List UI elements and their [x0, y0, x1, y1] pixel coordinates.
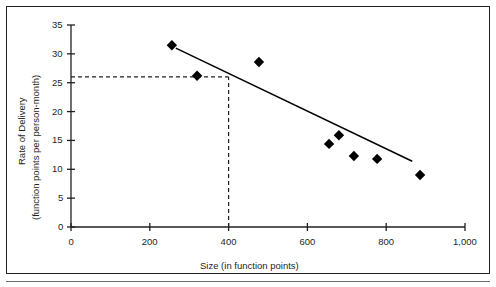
data-points-group: [167, 40, 426, 180]
trend-line-group: [176, 48, 412, 161]
y-tick-label: 20: [52, 107, 63, 117]
axes-group: [67, 25, 465, 231]
scatter-plot: [0, 0, 496, 287]
y-tick-label: 30: [52, 49, 63, 59]
data-point-marker: [192, 71, 202, 81]
chart-figure: 02004006008001,000 05101520253035 Rate o…: [0, 0, 496, 287]
x-tick-label: 600: [299, 237, 315, 247]
data-point-marker: [349, 151, 359, 161]
y-tick-label: 10: [52, 164, 63, 174]
y-tick-label: 25: [52, 78, 63, 88]
data-point-marker: [372, 154, 382, 164]
data-point-marker: [324, 139, 334, 149]
y-tick-label: 0: [58, 222, 63, 232]
trend-line: [176, 48, 412, 161]
x-tick-label: 400: [221, 237, 237, 247]
data-point-marker: [334, 130, 344, 140]
guide-lines-group: [71, 77, 229, 227]
y-tick-label: 15: [52, 135, 63, 145]
data-point-marker: [415, 170, 425, 180]
y-tick-label: 5: [58, 193, 63, 203]
x-axis-title: Size (in function points): [200, 261, 299, 271]
x-tick-label: 800: [378, 237, 394, 247]
x-tick-label: 0: [69, 237, 74, 247]
bottom-rule: [6, 281, 490, 282]
y-axis-title-line1: Rate of Delivery: [17, 97, 27, 165]
x-tick-label: 1,000: [453, 237, 477, 247]
y-tick-label: 35: [52, 20, 63, 30]
y-axis-title-line2: (function points per person-month): [31, 75, 41, 220]
x-tick-label: 200: [142, 237, 158, 247]
data-point-marker: [167, 40, 177, 50]
data-point-marker: [254, 57, 264, 67]
